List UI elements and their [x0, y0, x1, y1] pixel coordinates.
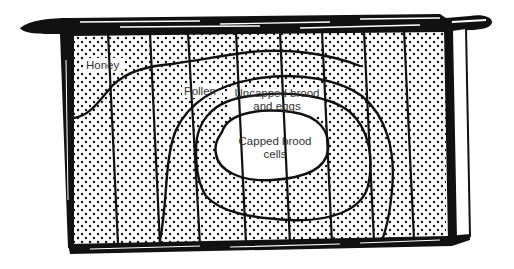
frame-right-side	[444, 28, 470, 242]
label-uncapped-line2: and eggs	[228, 100, 326, 113]
label-honey: Honey	[86, 59, 119, 72]
label-capped-brood: Capped brood cells	[230, 135, 320, 161]
frame-left-side	[60, 34, 74, 248]
label-uncapped-line1: Uncapped brood	[228, 87, 326, 100]
hive-frame-diagram: Honey Pollen Uncapped brood and eggs Cap…	[0, 0, 514, 269]
label-capped-line1: Capped brood	[230, 135, 320, 148]
label-pollen: Pollen	[184, 85, 216, 98]
label-uncapped-brood: Uncapped brood and eggs	[228, 87, 326, 113]
label-capped-line2: cells	[230, 148, 320, 161]
